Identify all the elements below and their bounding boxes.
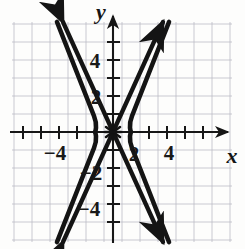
x-tick-label-neg4: −4: [44, 141, 67, 165]
graph-figure: −4 2 4 4 2 −2 −4 x y: [0, 0, 245, 249]
y-tick-label-4: 4: [90, 49, 101, 73]
figure-background: [0, 0, 245, 249]
coordinate-plane-svg: −4 2 4 4 2 −2 −4 x y: [0, 0, 245, 249]
x-tick-label-4: 4: [164, 141, 175, 165]
x-axis-label: x: [226, 143, 238, 168]
y-tick-label-2: 2: [91, 85, 102, 109]
y-tick-label-neg2: −2: [80, 161, 102, 185]
x-tick-label-2: 2: [129, 142, 140, 166]
y-tick-label-neg4: −4: [78, 197, 101, 221]
